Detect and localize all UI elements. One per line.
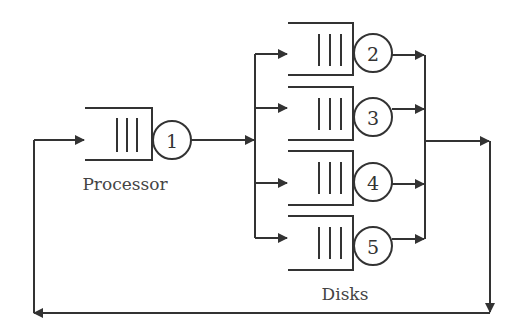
disk-3-server-number: 3 — [367, 107, 379, 129]
disk-3-queue — [288, 87, 353, 140]
processor-server-number: 1 — [166, 130, 178, 152]
processor-label: Processor — [82, 174, 168, 194]
disk-5-server: 5 — [354, 227, 392, 265]
disk-3-server: 3 — [354, 98, 392, 136]
processor-server: 1 — [153, 121, 191, 159]
disk-2-queue — [288, 23, 353, 75]
disks-label: Disks — [322, 284, 369, 304]
disk-4-server-number: 4 — [367, 172, 379, 194]
disk-5-server-number: 5 — [367, 236, 379, 258]
processor-queue — [85, 108, 152, 160]
disk-5-queue — [288, 216, 353, 270]
disk-4-server: 4 — [354, 163, 392, 201]
disk-2-server-number: 2 — [367, 43, 379, 65]
disk-2-server: 2 — [354, 34, 392, 72]
queueing-network-diagram: 1 Processor 2 3 4 — [0, 0, 517, 334]
disk-4-queue — [288, 151, 353, 205]
